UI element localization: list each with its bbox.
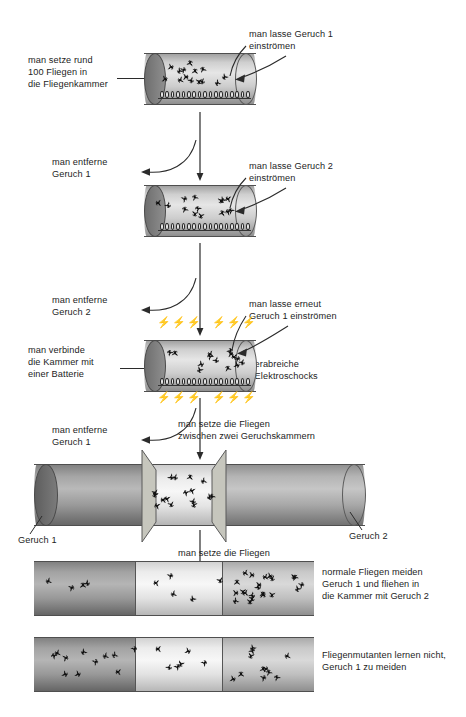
odor2-label: Geruch 2 (349, 530, 388, 542)
remove-odor1b-arrowhead (141, 436, 150, 443)
fly-icon (283, 651, 292, 660)
fly-icon (239, 587, 246, 594)
remove-odor2-curve (146, 278, 196, 310)
flow-arrowhead-1-2 (197, 173, 204, 181)
fly-icon (182, 74, 189, 81)
fly-icon (215, 576, 224, 585)
result-mutant-label: Fliegenmutanten lernen nicht, Geruch 1 z… (322, 649, 466, 673)
fly-icon (160, 75, 168, 83)
odor1-inflow-curve (230, 46, 246, 76)
fly-icon (188, 496, 198, 506)
mutant-divider-2 (222, 637, 223, 692)
odor2-inflow-curve2 (240, 188, 286, 210)
fly-icon (237, 671, 244, 678)
fly-icon (150, 488, 159, 497)
remove-odor1-curve (146, 140, 196, 172)
fly-icon (154, 199, 161, 206)
fly-icon (197, 211, 205, 219)
flow-arrowhead-3-4 (197, 452, 204, 460)
fly-icon (255, 582, 262, 589)
flow-arrowhead-2-3 (197, 328, 204, 336)
fly-icon (187, 473, 195, 481)
fly-icon (61, 654, 70, 663)
fly-icon (183, 647, 192, 656)
odor1-reinflow-curve (232, 316, 246, 350)
mutant-segment-odor1 (34, 637, 135, 692)
odor1-inflow-curve2 (240, 56, 286, 78)
odor1-reinflow-curve2 (242, 326, 288, 352)
remove-odor1-arrowhead (141, 168, 150, 175)
odor1-inflow-arrowhead (235, 75, 245, 83)
fly-icon (155, 645, 162, 652)
fly-icon (231, 590, 238, 597)
fly-icon (234, 579, 241, 586)
fly-icon (246, 598, 253, 605)
normal-segment-middle (135, 561, 222, 616)
fly-icon (230, 352, 238, 360)
fly-icon (115, 668, 123, 676)
fly-icon (195, 77, 202, 84)
remove-odor2-arrowhead (141, 306, 150, 313)
normal-divider-1 (135, 561, 136, 616)
odor1-leader (30, 516, 42, 534)
fly-icon (241, 569, 249, 577)
fly-icon (267, 574, 276, 583)
fly-icon (267, 591, 275, 599)
remove-odor1b-curve (146, 408, 196, 440)
odor2-leader (350, 512, 362, 530)
odor2-inflow-curve (230, 178, 246, 208)
fly-icon (217, 197, 224, 204)
fly-icon (228, 675, 237, 684)
normal-divider-2 (222, 561, 223, 616)
result-normal-label: normale Fliegen meiden Geruch 1 und flie… (322, 566, 466, 603)
odor1-label: Geruch 1 (18, 534, 57, 546)
fly-icon (172, 349, 180, 357)
